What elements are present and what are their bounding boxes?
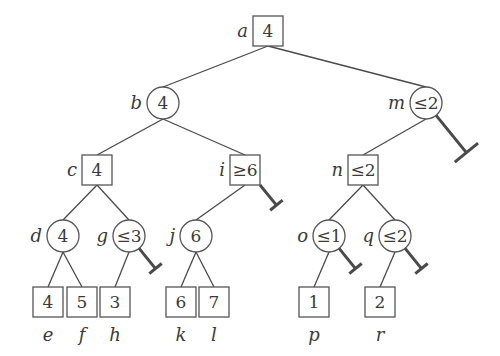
node-label: m bbox=[388, 92, 405, 113]
pruned-branch-m bbox=[436, 115, 478, 162]
node-label: d bbox=[30, 225, 42, 246]
pruned-branch-g bbox=[139, 248, 162, 273]
node-value: ≤3 bbox=[116, 226, 141, 246]
node-d: 4d bbox=[30, 220, 79, 252]
node-label: l bbox=[211, 324, 217, 345]
node-q: ≤2q bbox=[362, 220, 411, 252]
node-label: f bbox=[77, 324, 89, 345]
edge-b-c bbox=[97, 119, 163, 155]
node-value: ≤2 bbox=[382, 226, 407, 246]
node-label: c bbox=[67, 159, 77, 180]
node-p: 1p bbox=[299, 287, 329, 345]
node-i: ≥6i bbox=[219, 155, 260, 185]
node-value: 6 bbox=[176, 292, 187, 312]
node-value: ≤2 bbox=[350, 160, 375, 180]
node-o: ≤1o bbox=[297, 220, 345, 252]
edge-d-e bbox=[48, 252, 63, 287]
pruned-branch-q bbox=[405, 248, 428, 273]
node-value: ≤1 bbox=[316, 226, 341, 246]
node-c: 4c bbox=[67, 155, 112, 185]
tree-nodes: 4a4b≤2m4c≥6i≤2n4d≤3g6j≤1o≤2q4e5f3h6k7l1p… bbox=[30, 16, 442, 345]
node-label: e bbox=[43, 324, 54, 345]
edge-c-d bbox=[63, 185, 97, 220]
edge-b-i bbox=[163, 119, 245, 155]
pruned-branch-o bbox=[339, 248, 362, 273]
node-k: 6k bbox=[166, 287, 196, 345]
node-value: ≥6 bbox=[232, 160, 257, 180]
edge-c-g bbox=[97, 185, 129, 220]
node-g: ≤3g bbox=[96, 220, 145, 252]
node-a: 4a bbox=[237, 16, 283, 46]
node-label: p bbox=[308, 324, 320, 345]
node-b: 4b bbox=[130, 87, 179, 119]
node-e: 4e bbox=[33, 287, 63, 345]
node-l: 7l bbox=[199, 287, 229, 345]
node-value: 4 bbox=[92, 160, 103, 180]
node-value: 1 bbox=[309, 292, 320, 312]
node-value: 7 bbox=[209, 292, 220, 312]
node-m: ≤2m bbox=[388, 87, 442, 119]
edge-j-k bbox=[181, 252, 196, 287]
edge-m-n bbox=[363, 119, 426, 155]
edge-a-b bbox=[163, 46, 268, 87]
node-label: h bbox=[109, 324, 121, 345]
node-j: 6j bbox=[165, 220, 212, 252]
node-label: r bbox=[376, 324, 386, 345]
node-label: j bbox=[165, 225, 175, 246]
node-f: 5f bbox=[67, 287, 97, 345]
node-n: ≤2n bbox=[331, 155, 378, 185]
node-value: 3 bbox=[110, 292, 121, 312]
cutoff-bar-icon bbox=[455, 143, 478, 162]
node-r: 2r bbox=[365, 287, 395, 345]
pruned-branch-i bbox=[260, 185, 283, 210]
edge-g-h bbox=[115, 252, 129, 287]
edge-i-j bbox=[196, 185, 245, 220]
node-label: o bbox=[297, 225, 308, 246]
edge-n-q bbox=[363, 185, 395, 220]
edge-q-r bbox=[380, 252, 395, 287]
node-value: 4 bbox=[43, 292, 54, 312]
edge-d-f bbox=[63, 252, 82, 287]
node-h: 3h bbox=[100, 287, 130, 345]
node-value: ≤2 bbox=[413, 93, 438, 113]
node-value: 4 bbox=[58, 226, 69, 246]
edge-n-o bbox=[329, 185, 363, 220]
node-label: g bbox=[96, 225, 108, 246]
node-value: 6 bbox=[191, 226, 202, 246]
alpha-beta-tree-diagram: 4a4b≤2m4c≥6i≤2n4d≤3g6j≤1o≤2q4e5f3h6k7l1p… bbox=[0, 0, 500, 356]
node-value: 4 bbox=[158, 93, 169, 113]
node-label: i bbox=[219, 159, 225, 180]
node-label: b bbox=[130, 92, 142, 113]
node-label: q bbox=[362, 225, 374, 246]
edge-a-m bbox=[268, 46, 426, 87]
node-label: k bbox=[176, 324, 187, 345]
edge-j-l bbox=[196, 252, 214, 287]
node-value: 2 bbox=[375, 292, 386, 312]
node-value: 5 bbox=[77, 292, 88, 312]
node-label: a bbox=[237, 20, 248, 41]
node-label: n bbox=[331, 159, 343, 180]
node-value: 4 bbox=[263, 21, 274, 41]
edge-o-p bbox=[314, 252, 329, 287]
